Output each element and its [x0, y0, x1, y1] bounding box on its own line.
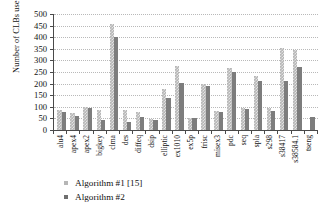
x-tick-label: bigkey: [96, 135, 104, 156]
x-tick-label: apex2: [83, 135, 91, 153]
bar: [192, 118, 196, 130]
x-tick-mark: [66, 130, 67, 134]
bar: [140, 117, 144, 130]
x-tick-mark: [225, 130, 226, 134]
legend-swatch-icon: [64, 181, 68, 185]
x-tick-mark: [145, 130, 146, 134]
x-axis-labels: alu4apex4apex2bigkeyclmadesdiffeqdsipell…: [53, 134, 317, 176]
y-tick-label: 450: [34, 21, 47, 31]
x-tick-mark: [264, 130, 265, 134]
x-label-cell: elliptic: [159, 134, 172, 176]
bar-group: [199, 14, 212, 130]
y-axis-ticks: 500450400350300250200150100500: [0, 14, 53, 130]
bar-group: [107, 14, 120, 130]
x-tick-mark: [119, 130, 120, 134]
x-tick-label: frisc: [201, 135, 209, 149]
bar: [219, 112, 223, 130]
bar-group: [134, 14, 147, 130]
bar: [245, 109, 249, 130]
x-tick-label: pdc: [227, 135, 235, 146]
x-label-cell: tseng: [303, 134, 316, 176]
bar-group: [238, 14, 251, 130]
legend-item[interactable]: Algorithm #1 [15]: [64, 177, 142, 188]
x-tick-mark: [304, 130, 305, 134]
x-tick-mark: [93, 130, 94, 134]
x-tick-mark: [211, 130, 212, 134]
legend-label: Algorithm #2: [75, 192, 125, 202]
x-label-cell: misex3: [211, 134, 224, 176]
plot-area: [53, 14, 318, 131]
y-tick-label: 200: [34, 79, 47, 89]
x-tick-label: tseng: [306, 135, 314, 151]
x-label-cell: pdc: [224, 134, 237, 176]
bar: [258, 81, 262, 130]
x-label-cell: frisc: [198, 134, 211, 176]
x-tick-label: diffeq: [135, 135, 143, 153]
bar-group: [291, 14, 304, 130]
chart-legend: Algorithm #1 [15]Algorithm #2: [64, 177, 142, 202]
x-label-cell: dsip: [146, 134, 159, 176]
x-tick-label: s38417: [279, 135, 287, 157]
x-tick-mark: [53, 130, 54, 134]
bar: [75, 116, 79, 130]
bar: [310, 117, 314, 130]
x-tick-label: seq: [240, 135, 248, 145]
x-label-cell: apex4: [67, 134, 80, 176]
x-tick-mark: [291, 130, 292, 134]
bar: [179, 83, 183, 130]
x-tick-label: s298: [266, 135, 274, 149]
bar-groups: [54, 14, 318, 130]
y-tick-label: 50: [38, 113, 47, 123]
bar-group: [278, 14, 291, 130]
bar-group: [304, 14, 317, 130]
y-tick-label: 400: [34, 32, 47, 42]
x-label-cell: s298: [264, 134, 277, 176]
bar-group: [147, 14, 160, 130]
bar: [166, 98, 170, 130]
x-tick-mark: [238, 130, 239, 134]
x-tick-label: misex3: [214, 135, 222, 157]
x-label-cell: spla: [250, 134, 263, 176]
x-tick-label: des: [122, 135, 130, 145]
x-label-cell: des: [119, 134, 132, 176]
x-tick-label: apex4: [70, 135, 78, 153]
x-tick-label: alu4: [57, 135, 65, 148]
x-tick-label: dsip: [148, 135, 156, 148]
bar-group: [265, 14, 278, 130]
x-tick-mark: [159, 130, 160, 134]
y-tick-label: 100: [34, 102, 47, 112]
x-tick-mark: [185, 130, 186, 134]
y-tick-label: 350: [34, 44, 47, 54]
x-label-cell: ex1010: [172, 134, 185, 176]
x-label-cell: ex5p: [185, 134, 198, 176]
legend-label: Algorithm #1 [15]: [75, 178, 142, 188]
bar: [88, 108, 92, 130]
legend-item[interactable]: Algorithm #2: [64, 191, 142, 202]
bar-group: [173, 14, 186, 130]
bar-group: [186, 14, 199, 130]
y-tick-label: 500: [34, 9, 47, 19]
x-tick-label: ex5p: [188, 135, 196, 150]
y-tick-label: 300: [34, 55, 47, 65]
y-tick-label: 150: [34, 90, 47, 100]
x-label-cell: apex2: [80, 134, 93, 176]
y-tick-label: 250: [34, 67, 47, 77]
x-tick-label: ex1010: [175, 135, 183, 157]
bar: [284, 81, 288, 130]
bar-group: [120, 14, 133, 130]
bar: [153, 120, 157, 130]
bar-group: [81, 14, 94, 130]
bar-group: [212, 14, 225, 130]
bar: [62, 112, 66, 130]
bar: [271, 111, 275, 130]
bar-group: [55, 14, 68, 130]
x-label-cell: s38417: [277, 134, 290, 176]
x-label-cell: s38584.1: [290, 134, 303, 176]
bar-group: [225, 14, 238, 130]
x-tick-mark: [106, 130, 107, 134]
bar-group: [251, 14, 264, 130]
x-label-cell: diffeq: [133, 134, 146, 176]
x-tick-mark: [198, 130, 199, 134]
x-tick-mark: [317, 130, 318, 134]
x-tick-label: spla: [253, 135, 261, 147]
